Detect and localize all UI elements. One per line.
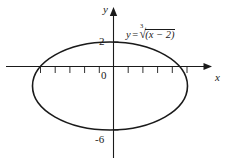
y-tick-label-2: 2 (99, 36, 105, 47)
origin-label: 0 (101, 70, 107, 81)
radical-group: 3√(x − 2) (140, 28, 176, 41)
y-axis-label: y (103, 4, 108, 15)
equation-annotation: y=3√(x − 2) (126, 28, 175, 41)
radicand-label: (x − 2) (145, 29, 175, 41)
y-axis-ticks (114, 42, 119, 130)
y-tick-label-minus-6: -6 (95, 134, 104, 145)
y-axis-arrow-icon (110, 7, 117, 16)
graph-figure: y x 2 0 -6 y=3√(x − 2) (0, 0, 228, 160)
equation-equals: = (131, 29, 140, 40)
ellipse-curve (33, 42, 188, 130)
x-axis-arrow-icon (204, 63, 213, 70)
radical-sign-icon: √ (140, 27, 147, 40)
x-axis-label: x (215, 72, 220, 83)
coordinate-plot (0, 0, 228, 160)
equation-lhs: y (126, 29, 131, 40)
